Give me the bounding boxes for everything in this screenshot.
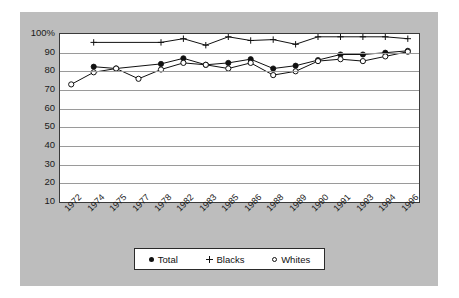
x-axis-tick-label: 1988 xyxy=(265,193,286,214)
x-axis-tick-label: 1983 xyxy=(198,193,219,214)
x-axis-tick-label: 1986 xyxy=(243,193,264,214)
legend-dot-icon xyxy=(149,257,154,262)
x-axis-tick-label: 1994 xyxy=(377,193,398,214)
x-axis-tick-label: 1972 xyxy=(63,193,84,214)
chart-figure: 102030405060708090100% 19721974197519771… xyxy=(0,0,459,298)
x-axis-tick-label: 1985 xyxy=(220,193,241,214)
x-axis-tick-label: 1989 xyxy=(288,193,309,214)
x-axis-tick-label: 1975 xyxy=(108,193,129,214)
x-axis-tick-label: 1982 xyxy=(175,193,196,214)
legend-circle-icon xyxy=(272,257,277,262)
legend-item-label: Total xyxy=(158,254,178,265)
chart-legend: TotalBlacksWhites xyxy=(134,248,325,270)
x-axis-tick-label: 1996 xyxy=(400,193,421,214)
x-axis-tick-label: 1977 xyxy=(131,193,152,214)
legend-item-total: Total xyxy=(149,254,178,265)
x-axis-tick-label: 1978 xyxy=(153,193,174,214)
legend-item-whites: Whites xyxy=(272,254,310,265)
x-axis-tick-label: 1993 xyxy=(355,193,376,214)
legend-plus-icon xyxy=(206,256,213,263)
x-axis-tick-label: 1974 xyxy=(86,193,107,214)
legend-item-label: Blacks xyxy=(217,254,245,265)
legend-item-label: Whites xyxy=(281,254,310,265)
legend-item-blacks: Blacks xyxy=(206,254,245,265)
x-axis-tick-label: 1991 xyxy=(332,193,353,214)
x-axis-tick-label: 1990 xyxy=(310,193,331,214)
